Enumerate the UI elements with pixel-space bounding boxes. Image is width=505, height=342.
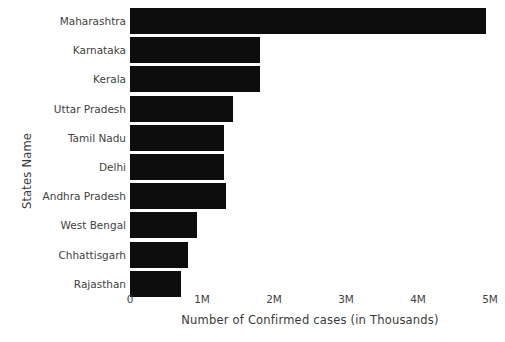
y-tick-label: Rajasthan [6, 271, 130, 297]
y-tick-label: Tamil Nadu [6, 125, 130, 151]
y-tick-label: Maharashtra [6, 8, 130, 34]
x-axis-tick-labels: 01M2M3M4M5M [130, 293, 490, 309]
bar-rect [130, 212, 197, 238]
bar-rect [130, 125, 224, 151]
bar-rect [130, 154, 224, 180]
x-tick-label: 4M [410, 293, 426, 305]
bar-rect [130, 37, 260, 63]
y-tick-label: Delhi [6, 154, 130, 180]
y-tick-label: Uttar Pradesh [6, 96, 130, 122]
x-tick-label: 0 [127, 293, 134, 305]
bar-rect [130, 242, 188, 268]
bar-rect [130, 8, 486, 34]
plot-area [130, 0, 490, 292]
y-axis-tick-labels: MaharashtraKarnatakaKeralaUttar PradeshT… [0, 0, 130, 292]
bar-rect [130, 96, 233, 122]
x-tick-label: 3M [338, 293, 354, 305]
x-axis-title: Number of Confirmed cases (in Thousands) [130, 313, 490, 327]
x-tick-label: 5M [482, 293, 498, 305]
bar-rect [130, 183, 226, 209]
bar-chart: States Name MaharashtraKarnatakaKeralaUt… [0, 0, 505, 342]
x-tick-label: 2M [266, 293, 282, 305]
y-tick-label: Karnataka [6, 37, 130, 63]
y-tick-label: West Bengal [6, 212, 130, 238]
x-tick-label: 1M [194, 293, 210, 305]
y-tick-label: Andhra Pradesh [6, 183, 130, 209]
y-tick-label: Kerala [6, 66, 130, 92]
bar-rect [130, 66, 260, 92]
y-tick-label: Chhattisgarh [6, 242, 130, 268]
